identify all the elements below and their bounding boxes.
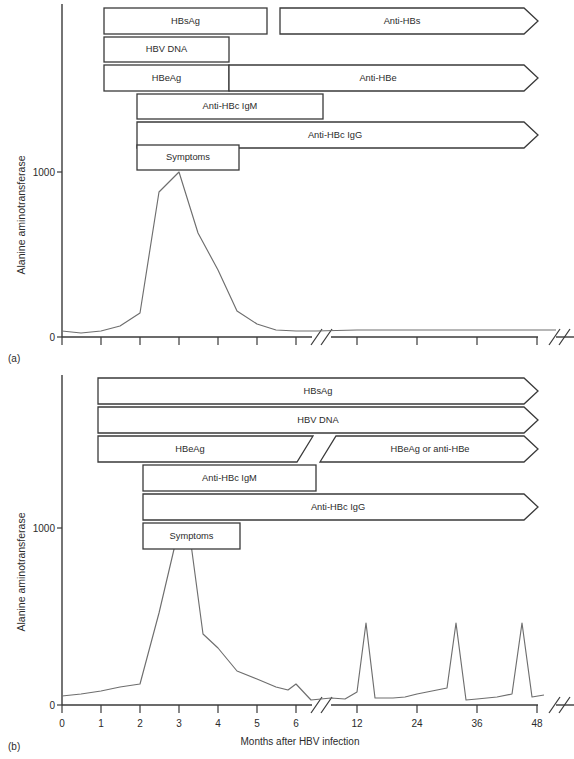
panel-b-tag: (b) (8, 741, 20, 752)
panel-a: Alanine aminotransferase 1000 0 (8, 4, 574, 364)
bar-label-hbv-dna-b: HBV DNA (297, 415, 339, 425)
panel-a-ytick-1000: 1000 (33, 167, 56, 178)
xtick-label-3: 3 (176, 718, 182, 729)
xaxis-title: Months after HBV infection (241, 736, 360, 747)
xtick-label-1: 1 (98, 718, 104, 729)
panel-b-alt-curve (62, 528, 544, 700)
figure-svg: Alanine aminotransferase 1000 0 (0, 0, 574, 759)
panel-b-x-tick-labels: 0 1 2 3 4 5 6 12 24 36 48 (59, 718, 543, 729)
bar-label-symptoms-b: Symptoms (170, 531, 214, 541)
bar-label-anti-hbc-igm-a: Anti-HBc IgM (203, 101, 258, 111)
xtick-label-24: 24 (411, 718, 423, 729)
xtick-label-6: 6 (293, 718, 299, 729)
xtick-label-36: 36 (471, 718, 483, 729)
panel-a-alt-curve (62, 172, 556, 333)
xtick-label-4: 4 (215, 718, 221, 729)
panel-b-yaxis-title: Alanine aminotransferase (15, 512, 27, 631)
panel-b-ytick-0: 0 (49, 700, 55, 711)
panel-b-ytick-1000: 1000 (33, 523, 56, 534)
xtick-label-48: 48 (531, 718, 543, 729)
bar-label-symptoms-a: Symptoms (166, 152, 210, 162)
bar-label-anti-hbe-a: Anti-HBe (359, 73, 396, 83)
bar-label-hbv-dna-a: HBV DNA (146, 44, 188, 54)
bar-label-hbeag-b: HBeAg (175, 444, 204, 454)
bar-label-hbsag-b: HBsAg (304, 386, 333, 396)
bar-hbeag-b (98, 436, 313, 462)
hepatitis-b-serology-figure: Alanine aminotransferase 1000 0 (0, 0, 574, 759)
bar-label-anti-hbc-igm-b: Anti-HBc IgM (202, 473, 257, 483)
bar-label-hbsag-a: HBsAg (171, 16, 200, 26)
bar-label-hbeag-or-anti-hbe-b: HBeAg or anti-HBe (390, 444, 469, 454)
panel-b-x-ticks (62, 705, 537, 713)
xtick-label-12: 12 (351, 718, 363, 729)
xtick-label-2: 2 (137, 718, 143, 729)
bar-label-anti-hbs-a: Anti-HBs (384, 16, 421, 26)
xtick-label-0: 0 (59, 718, 65, 729)
bar-label-hbeag-a: HBeAg (152, 73, 181, 83)
bar-label-anti-hbc-igg-b: Anti-HBc IgG (311, 502, 365, 512)
panel-b-bars: HBsAg HBV DNA HBeAg HBeAg or anti-HBe An… (98, 378, 538, 549)
panel-a-bars: HBsAg Anti-HBs HBV DNA HBeAg Anti-HBe An… (104, 8, 538, 170)
panel-a-yaxis-title: Alanine aminotransferase (15, 155, 27, 274)
xtick-label-5: 5 (254, 718, 260, 729)
panel-b: Alanine aminotransferase 1000 0 (8, 375, 574, 752)
panel-a-ytick-0: 0 (49, 332, 55, 343)
panel-a-tag: (a) (8, 353, 20, 364)
bar-label-anti-hbc-igg-a: Anti-HBc IgG (308, 130, 362, 140)
panel-a-x-ticks (62, 337, 537, 345)
